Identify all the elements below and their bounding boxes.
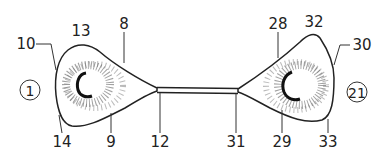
circled-label-1: 1 (20, 80, 41, 101)
label-29: 29 (272, 135, 291, 150)
label-28: 28 (268, 17, 287, 32)
label-32: 32 (304, 15, 323, 30)
label-33: 33 (318, 135, 337, 150)
label-10: 10 (16, 37, 35, 52)
label-12: 12 (150, 135, 169, 150)
circled-label-text: 1 (26, 82, 35, 98)
connecting-bar (157, 88, 238, 94)
label-14: 14 (52, 135, 71, 150)
label-30: 30 (352, 38, 371, 53)
circled-label-text: 21 (348, 84, 366, 100)
label-8: 8 (119, 17, 129, 32)
label-31: 31 (226, 135, 245, 150)
label-13: 13 (71, 24, 90, 39)
diagram: 1 21 10 13 8 14 9 12 28 32 30 31 29 33 (0, 0, 386, 159)
circled-label-21: 21 (347, 82, 368, 103)
left-lobe (56, 45, 158, 126)
label-9: 9 (106, 135, 116, 150)
